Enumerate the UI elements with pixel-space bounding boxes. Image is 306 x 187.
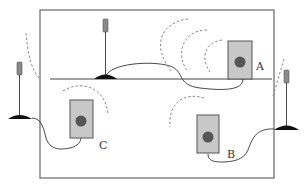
device-a: A [228,41,265,79]
device-a-label: A [255,60,265,73]
wave-right-outside [273,59,284,96]
antenna-base-icon [274,126,299,131]
room-diagram: A B C [0,0,306,187]
device-c: C [70,100,107,152]
antenna-base-icon [8,115,32,119]
antenna-right-outside [273,59,299,130]
device-b: B [197,115,235,161]
wave-left-outside [26,33,39,78]
antenna-base-icon [94,75,117,80]
antenna-head-icon [284,70,289,83]
room-outline [40,10,274,178]
antenna-left-outside [8,33,39,119]
device-b-speaker-icon [203,132,214,143]
device-c-speaker-icon [76,116,87,127]
device-a-speaker-icon [235,57,246,68]
antenna-head-icon [17,62,22,75]
antenna-head-icon [103,19,108,32]
cable-to-device-a [106,63,243,89]
device-c-label: C [99,139,107,152]
waves-near-device-a [161,19,222,72]
antenna-top-center [94,19,117,79]
device-b-label: B [227,148,235,161]
